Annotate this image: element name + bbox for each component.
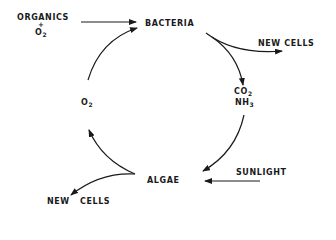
bacteria-new-cells-label: NEW CELLS xyxy=(258,40,314,48)
organics-o2-label: O2 xyxy=(35,29,47,37)
bacteria-label: BACTERIA xyxy=(145,20,194,28)
arrow-algae-to-new-cells xyxy=(71,174,135,195)
algae-new-cells-label: NEW CELLS xyxy=(47,198,110,206)
arrow-nh3-to-algae xyxy=(203,115,244,171)
sunlight-label: SUNLIGHT xyxy=(236,169,287,177)
arrow-algae-to-o2 xyxy=(89,130,135,174)
co2-label: CO2 xyxy=(234,88,253,96)
o2-cycle-label: O2 xyxy=(81,99,93,107)
algae-label: ALGAE xyxy=(147,177,180,185)
arrow-o2-to-bacteria xyxy=(88,28,137,80)
nh3-label: NH3 xyxy=(235,99,254,107)
